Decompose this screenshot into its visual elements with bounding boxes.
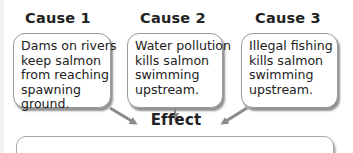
arrows-layer (0, 0, 353, 153)
effect-heading: Effect (120, 111, 232, 129)
effect-box (16, 136, 334, 153)
